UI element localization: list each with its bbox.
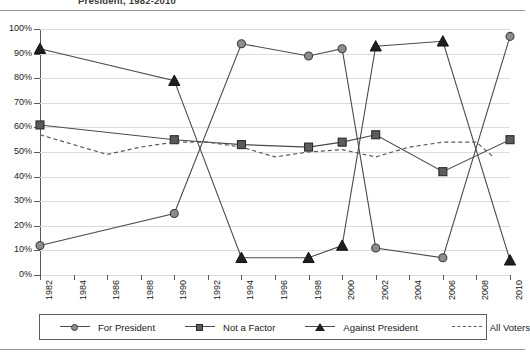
data-point-circle (237, 40, 245, 48)
x-axis-tick-label: 2002 (380, 280, 390, 300)
triangle-marker-icon (305, 321, 335, 333)
dashed-line-icon (452, 321, 482, 333)
x-axis-tick-label: 1984 (78, 280, 88, 300)
data-point-circle (36, 241, 44, 249)
x-tick (510, 275, 511, 280)
top-divider (0, 10, 525, 11)
x-axis-tick-label: 1994 (245, 280, 255, 300)
y-axis-tick-label: 70% (0, 98, 32, 107)
data-point-square (36, 121, 44, 129)
series-for-president (36, 32, 514, 261)
data-point-circle (338, 45, 346, 53)
x-axis-tick-label: 2010 (514, 280, 524, 300)
legend-item-against-president[interactable]: Against President (305, 321, 417, 333)
x-tick (174, 275, 175, 280)
data-point-triangle (504, 255, 515, 265)
chart-legend: For President Not a Factor Against Presi… (39, 314, 487, 340)
legend-label: Against President (343, 322, 417, 333)
data-point-circle (170, 210, 178, 218)
x-tick (40, 275, 41, 280)
x-tick (376, 275, 377, 280)
y-axis-tick-label: 60% (0, 122, 32, 131)
x-axis-tick-label: 1982 (44, 280, 54, 300)
series-against-president (34, 36, 515, 265)
y-axis-tick-label: 10% (0, 245, 32, 254)
data-point-triangle (437, 36, 448, 46)
bottom-divider (0, 349, 525, 350)
data-point-triangle (34, 43, 45, 53)
x-axis-tick-label: 1986 (111, 280, 121, 300)
x-tick (342, 275, 343, 280)
data-point-square (338, 138, 346, 146)
series-plot-area (40, 29, 510, 275)
legend-label: Not a Factor (223, 322, 275, 333)
x-tick (309, 275, 310, 280)
series-not-a-factor (36, 121, 514, 176)
data-point-square (439, 168, 447, 176)
x-tick (107, 275, 108, 280)
x-tick (74, 275, 75, 280)
legend-item-not-a-factor[interactable]: Not a Factor (185, 321, 275, 333)
legend-item-for-president[interactable]: For President (60, 321, 155, 333)
legend-label: For President (98, 322, 155, 333)
x-axis-tick-label: 2000 (346, 280, 356, 300)
x-axis-tick-label: 1990 (178, 280, 188, 300)
circle-marker-icon (60, 321, 90, 333)
legend-label: All Voters (490, 322, 530, 333)
y-axis-tick-label: 30% (0, 196, 32, 205)
x-tick (409, 275, 410, 280)
y-axis-tick-label: 50% (0, 147, 32, 156)
series-line (40, 41, 510, 260)
x-tick (275, 275, 276, 280)
series-line (40, 125, 510, 172)
x-axis-tick-label: 1996 (279, 280, 289, 300)
data-point-square (506, 136, 514, 144)
y-axis-tick-label: 0% (0, 270, 32, 279)
x-tick (208, 275, 209, 280)
data-point-circle (506, 32, 514, 40)
data-point-square (305, 143, 313, 151)
square-marker-icon (185, 321, 215, 333)
y-axis-tick-label: 20% (0, 221, 32, 230)
data-point-triangle (337, 240, 348, 250)
data-point-circle (439, 254, 447, 262)
legend-item-all-voters[interactable]: All Voters (452, 321, 530, 333)
y-axis-tick-label: 100% (0, 24, 32, 33)
x-axis-tick-label: 2006 (447, 280, 457, 300)
x-axis-tick-label: 1992 (212, 280, 222, 300)
x-axis-tick-label: 2004 (413, 280, 423, 300)
x-tick (476, 275, 477, 280)
y-axis-tick-label: 40% (0, 172, 32, 181)
chart-title: President, 1982-2010 (78, 0, 176, 6)
x-tick (241, 275, 242, 280)
data-point-square (372, 131, 380, 139)
data-point-circle (372, 244, 380, 252)
y-axis-tick-label: 90% (0, 49, 32, 58)
x-axis-tick-label: 1998 (313, 280, 323, 300)
x-tick (443, 275, 444, 280)
x-axis-tick-label: 2008 (480, 280, 490, 300)
x-axis-tick-label: 1988 (145, 280, 155, 300)
data-point-circle (305, 52, 313, 60)
x-tick (141, 275, 142, 280)
series-line (40, 36, 510, 257)
y-axis-tick-label: 80% (0, 73, 32, 82)
